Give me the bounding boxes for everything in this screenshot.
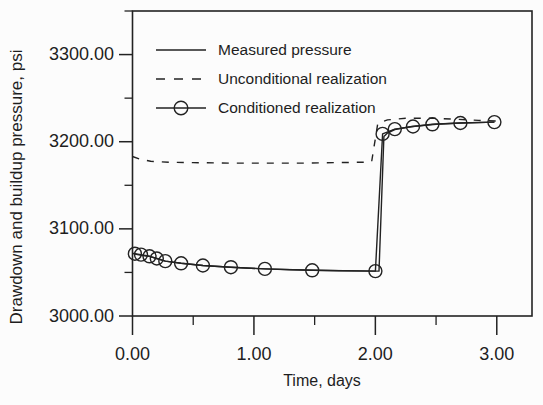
y-tick-label: 3200.00 [28,131,114,151]
chart-figure: Drawdown and buildup pressure, psi Time,… [0,0,543,405]
dashed-line-swatch-icon [155,70,207,88]
y-tick-label: 3300.00 [28,44,114,64]
legend-label-measured-pressure: Measured pressure [218,41,352,59]
x-tick-label: 0.00 [98,344,168,364]
x-tick-label: 2.00 [340,344,410,364]
legend: Measured pressure Unconditional realizat… [155,35,387,122]
legend-label-unconditional-realization: Unconditional realization [218,70,387,88]
x-tick-label: 3.00 [462,344,532,364]
solid-line-swatch-icon [155,41,207,59]
series-line-unconditional-realization [133,118,503,163]
y-tick-label: 3100.00 [28,218,114,238]
x-tick-label: 1.00 [219,344,289,364]
y-tick-label: 3000.00 [28,306,114,326]
legend-label-conditioned-realization: Conditioned realization [218,99,376,117]
legend-item-measured-pressure: Measured pressure [155,35,387,64]
circle-marker-line-swatch-icon [155,99,207,117]
series-line-conditioned-realization [135,122,495,271]
legend-item-conditioned-realization: Conditioned realization [155,93,387,122]
legend-item-unconditional-realization: Unconditional realization [155,64,387,93]
y-axis-title: Drawdown and buildup pressure, psi [7,50,27,325]
x-axis-title: Time, days [283,372,361,390]
series-line-measured-pressure [133,122,495,271]
